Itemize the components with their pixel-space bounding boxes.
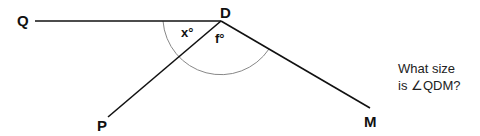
segment-dp [108,21,221,117]
question-line-2: is ∠QDM? [398,77,461,94]
point-label-d: D [220,4,231,21]
question-line-1: What size [398,60,461,77]
segment-dm [221,21,370,108]
question-text: What size is ∠QDM? [398,60,461,94]
point-label-q: Q [17,12,29,29]
angle-label-f: f° [215,31,225,46]
point-label-p: P [97,117,107,134]
point-label-m: M [364,113,377,130]
angle-label-x: x° [181,25,193,40]
angle-arc [163,21,269,75]
